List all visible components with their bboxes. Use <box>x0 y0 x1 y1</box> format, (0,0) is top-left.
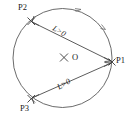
circle-outline <box>13 9 112 108</box>
point-label-p3: P3 <box>20 104 29 113</box>
point-marker-p2-icon <box>28 18 36 26</box>
arrowhead-p2-icon <box>32 16 39 26</box>
chord-p3-p1 <box>32 63 111 98</box>
point-label-p1: P1 <box>116 56 125 65</box>
point-label-p2: P2 <box>18 3 27 12</box>
circle-geometry-figure: P2 P1 P3 O L>0 L>0 <box>0 0 137 117</box>
center-label-o: O <box>72 53 78 62</box>
center-marker-icon <box>60 54 68 62</box>
